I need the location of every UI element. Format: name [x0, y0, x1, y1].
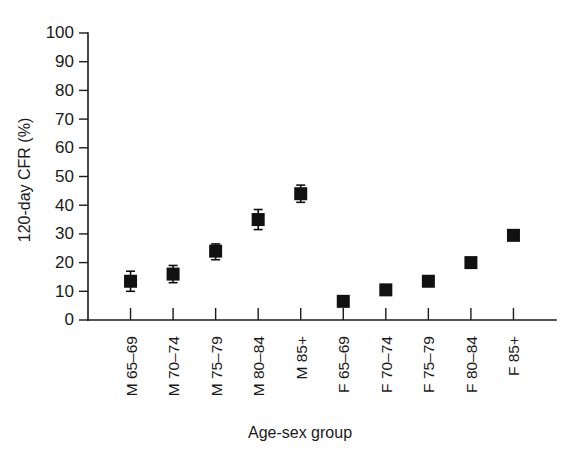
data-point-marker: [294, 187, 307, 200]
data-point: [167, 265, 180, 282]
x-axis-tick-label: F 80–84: [463, 336, 480, 393]
data-point-marker: [422, 275, 435, 288]
x-axis: M 65–69M 70–74M 75–79M 80–84M 85+F 65–69…: [88, 308, 556, 396]
y-axis-tick-label: 100: [46, 23, 74, 42]
x-axis-tick-label: M 70–74: [165, 336, 182, 397]
data-point: [294, 185, 307, 202]
chart-container: 0102030405060708090100 M 65–69M 70–74M 7…: [0, 0, 584, 463]
x-axis-tick-label: F 65–69: [335, 336, 352, 393]
cfr-scatter-chart: 0102030405060708090100 M 65–69M 70–74M 7…: [0, 0, 584, 463]
data-point: [422, 275, 435, 288]
y-axis-tick-label: 80: [55, 81, 74, 100]
data-points-group: [124, 185, 520, 308]
y-axis-tick-label: 70: [55, 110, 74, 129]
x-axis-tick-label: F 70–74: [378, 336, 395, 393]
y-axis-tick-label: 0: [65, 310, 74, 329]
x-axis-title: Age-sex group: [248, 424, 352, 441]
x-axis-tick-label: M 80–84: [250, 336, 267, 397]
data-point: [507, 229, 520, 242]
data-point: [209, 244, 222, 260]
data-point-marker: [379, 283, 392, 296]
x-axis-tick-label: M 65–69: [123, 336, 140, 396]
data-point: [379, 283, 392, 296]
data-point-marker: [464, 256, 477, 269]
y-axis-tick-label: 50: [55, 167, 74, 186]
y-axis-tick-label: 40: [55, 196, 74, 215]
data-point-marker: [167, 268, 180, 281]
x-axis-tick-label: F 85+: [505, 336, 522, 376]
y-axis: 0102030405060708090100: [46, 23, 88, 329]
data-point: [124, 271, 137, 291]
x-axis-tick-label: F 75–79: [420, 336, 437, 393]
data-point-marker: [507, 229, 520, 242]
x-axis-tick-label: M 85+: [293, 336, 310, 380]
y-axis-tick-label: 90: [55, 52, 74, 71]
y-axis-tick-label: 60: [55, 138, 74, 157]
x-axis-tick-label: M 75–79: [208, 336, 225, 396]
y-axis-title: 120-day CFR (%): [16, 118, 33, 242]
data-point: [337, 295, 350, 308]
y-axis-tick-label: 10: [55, 282, 74, 301]
data-point: [464, 256, 477, 269]
y-axis-tick-label: 20: [55, 253, 74, 272]
data-point-marker: [252, 213, 265, 226]
y-axis-tick-label: 30: [55, 224, 74, 243]
data-point: [252, 210, 265, 230]
data-point-marker: [124, 275, 137, 288]
data-point-marker: [337, 295, 350, 308]
data-point-marker: [209, 245, 222, 258]
